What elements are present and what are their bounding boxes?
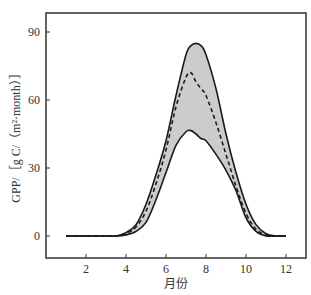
uncertainty-band (66, 43, 286, 236)
y-axis-title: GPP/［g C/（m²·month）］ (9, 67, 23, 202)
y-tick-label: 0 (34, 229, 40, 243)
x-tick-label: 6 (163, 262, 169, 276)
x-tick-label: 4 (123, 262, 129, 276)
y-tick-label: 60 (28, 93, 40, 107)
x-tick-label: 10 (240, 262, 252, 276)
x-tick-label: 8 (203, 262, 209, 276)
x-axis-title: 月份 (164, 277, 188, 291)
x-tick-label: 2 (83, 262, 89, 276)
y-tick-label: 30 (28, 161, 40, 175)
band-area (66, 43, 286, 236)
gpp-chart: 0306090 24681012 月份 GPP/［g C/（m²·month）］ (0, 0, 311, 295)
y-tick-label: 90 (28, 25, 40, 39)
x-tick-label: 12 (280, 262, 292, 276)
